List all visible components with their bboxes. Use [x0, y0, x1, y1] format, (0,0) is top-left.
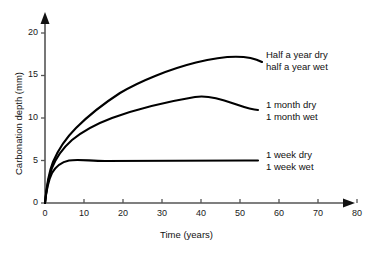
x-tick-label-10: 10: [74, 209, 94, 218]
annotation-1-week-line1: 1 week dry: [266, 149, 314, 161]
x-tick-label-60: 60: [269, 209, 289, 218]
y-axis-title: Carbonation depth (mm): [14, 72, 24, 175]
series-line-1-week: [45, 160, 258, 203]
x-tick-label-80: 80: [347, 209, 367, 218]
annotation-1-week-line2: 1 week wet: [266, 161, 314, 173]
x-axis: [45, 199, 355, 208]
y-tick-label-20: 20: [20, 28, 38, 37]
annotation-1-week: 1 week dry 1 week wet: [266, 149, 314, 173]
annotation-1-month-line1: 1 month dry: [266, 99, 318, 111]
series-line-half-year: [45, 57, 262, 203]
annotation-1-month-line2: 1 month wet: [266, 111, 318, 123]
x-axis-title: Time (years): [160, 230, 213, 240]
y-axis: [41, 12, 50, 203]
x-tick-label-20: 20: [113, 209, 133, 218]
series-line-1-month: [45, 97, 258, 203]
annotation-1-month: 1 month dry 1 month wet: [266, 99, 318, 123]
y-tick-label-0: 0: [20, 198, 38, 207]
x-tick-label-0: 0: [35, 209, 55, 218]
annotation-half-year-line1: Half a year dry: [266, 49, 328, 61]
x-tick-label-30: 30: [152, 209, 172, 218]
annotation-half-year: Half a year dry half a year wet: [266, 49, 328, 73]
x-tick-label-70: 70: [308, 209, 328, 218]
x-tick-label-50: 50: [230, 209, 250, 218]
annotation-half-year-line2: half a year wet: [266, 61, 328, 73]
x-tick-label-40: 40: [191, 209, 211, 218]
